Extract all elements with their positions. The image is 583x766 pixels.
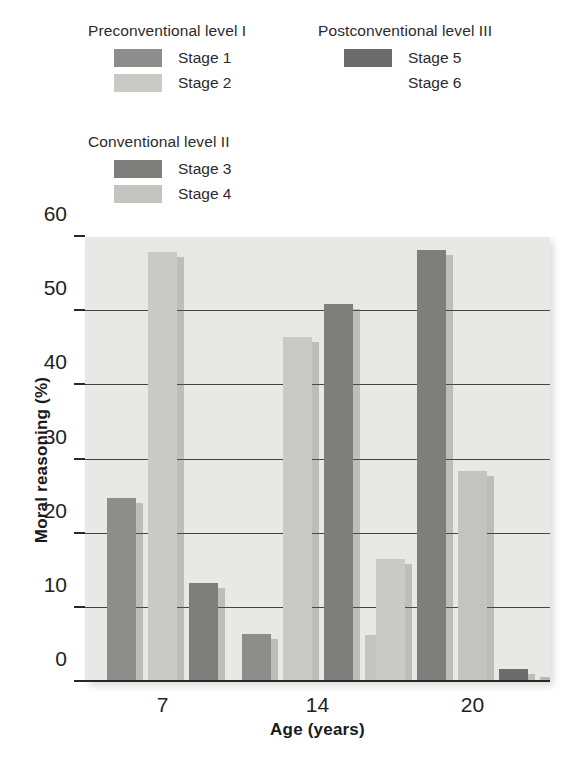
y-axis-tick [74, 606, 85, 608]
bar-shadow [446, 255, 453, 682]
plot-inner [85, 237, 550, 682]
legend-swatch-stage-4 [114, 185, 162, 203]
bar-stage-1-age-7 [107, 498, 136, 682]
bar-chart: 0102030405060 71420 Age (years) Moral re… [0, 228, 583, 766]
legend-item-stage-5: Stage 5 [318, 45, 492, 70]
bar-shadow [405, 564, 412, 682]
legend-label-stage-2: Stage 2 [178, 74, 231, 92]
legend-swatch-stage-3 [114, 160, 162, 178]
bar-stage-3-age-14 [324, 304, 353, 682]
bar-face [148, 252, 177, 682]
bar-stage-2-age-7 [148, 252, 177, 682]
bar-face [417, 250, 446, 682]
bar-stage-3-age-7 [189, 583, 218, 682]
y-axis-tick-label: 50 [44, 276, 67, 300]
legend-label-stage-6: Stage 6 [408, 74, 461, 92]
chart-legend: Preconventional level I Stage 1 Stage 2 … [0, 0, 583, 228]
bar-stage-1-age-14 [242, 634, 271, 682]
legend-item-stage-4: Stage 4 [88, 181, 231, 206]
plot-area: 0102030405060 71420 [85, 237, 550, 682]
legend-label-stage-1: Stage 1 [178, 49, 231, 67]
bar-shadow [271, 639, 278, 682]
legend-item-stage-2: Stage 2 [88, 70, 246, 95]
bar-face [107, 498, 136, 682]
legend-item-stage-3: Stage 3 [88, 156, 231, 181]
y-axis-tick [74, 235, 85, 237]
bar-stage-4-age-20 [458, 471, 487, 682]
legend-swatch-stage-2 [114, 74, 162, 92]
bar-stage-3-age-20 [417, 250, 446, 682]
bar-face [283, 337, 312, 682]
y-axis-tick [74, 458, 85, 460]
bar-face [324, 304, 353, 682]
y-axis-tick-label: 0 [55, 647, 67, 671]
bar-face [376, 559, 405, 682]
y-axis-tick [74, 309, 85, 311]
legend-group-heading: Preconventional level I [88, 22, 246, 40]
x-axis-tick-label: 7 [157, 693, 169, 717]
bar-face [458, 471, 487, 682]
x-axis-line [85, 680, 550, 682]
bar-shadow [218, 588, 225, 682]
x-axis-tick-label: 14 [306, 693, 329, 717]
legend-item-stage-1: Stage 1 [88, 45, 246, 70]
bar-stage-2-age-20 [376, 559, 405, 682]
legend-group-preconventional: Preconventional level I Stage 1 Stage 2 [88, 22, 246, 95]
bar-shadow [353, 309, 360, 682]
legend-group-conventional: Conventional level II Stage 3 Stage 4 [88, 133, 231, 206]
x-axis-title: Age (years) [85, 720, 550, 740]
y-axis-tick [74, 383, 85, 385]
bar-shadow [136, 503, 143, 682]
bar-stage-2-age-14 [283, 337, 312, 682]
legend-swatch-stage-5 [344, 49, 392, 67]
legend-label-stage-5: Stage 5 [408, 49, 461, 67]
legend-group-postconventional: Postconventional level III Stage 5 Stage… [318, 22, 492, 95]
y-axis-tick [74, 532, 85, 534]
legend-item-stage-6: Stage 6 [318, 70, 492, 95]
bar-face [189, 583, 218, 682]
y-axis-tick-label: 60 [44, 202, 67, 226]
y-axis-tick [74, 680, 85, 682]
y-axis-title: Moral reasoning (%) [32, 320, 52, 600]
legend-label-stage-3: Stage 3 [178, 160, 231, 178]
bar-face [242, 634, 271, 682]
x-axis-tick-label: 20 [461, 693, 484, 717]
bar-shadow [487, 476, 494, 682]
legend-swatch-stage-6 [344, 74, 392, 92]
legend-swatch-stage-1 [114, 49, 162, 67]
bar-shadow [312, 342, 319, 682]
legend-group-heading: Conventional level II [88, 133, 231, 151]
bar-shadow [177, 257, 184, 682]
legend-label-stage-4: Stage 4 [178, 185, 231, 203]
legend-group-heading: Postconventional level III [318, 22, 492, 40]
